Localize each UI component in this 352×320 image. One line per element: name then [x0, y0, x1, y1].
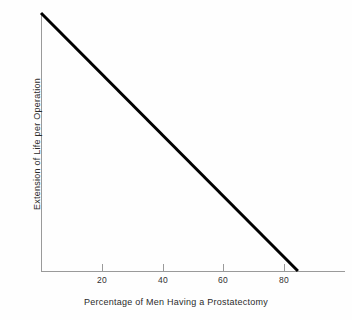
x-tick-label-20: 20 — [89, 275, 115, 285]
y-axis-title: Extension of Life per Operation — [32, 29, 42, 259]
x-tick-mark-80 — [284, 264, 285, 271]
plot-area: 20 40 60 80 — [0, 0, 352, 320]
series-line-extension-of-life — [41, 13, 298, 271]
x-tick-label-80: 80 — [271, 275, 297, 285]
x-tick-mark-60 — [223, 264, 224, 271]
x-axis-line — [41, 271, 345, 272]
series-line-chart — [0, 0, 352, 320]
x-tick-label-40: 40 — [150, 275, 176, 285]
x-axis-title: Percentage of Men Having a Prostatectomy — [0, 297, 352, 307]
x-tick-label-60: 60 — [210, 275, 236, 285]
x-tick-mark-40 — [163, 264, 164, 271]
x-tick-mark-20 — [102, 264, 103, 271]
chart-page: 20 40 60 80 Percentage of Men Having a P… — [0, 0, 352, 320]
